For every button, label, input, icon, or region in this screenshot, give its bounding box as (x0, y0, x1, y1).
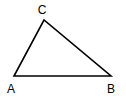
vertex-label-b: B (107, 82, 115, 96)
vertex-label-c: C (38, 3, 47, 17)
triangle-abc (14, 20, 111, 76)
triangle-diagram: A B C (0, 0, 126, 97)
vertex-label-a: A (7, 82, 15, 96)
